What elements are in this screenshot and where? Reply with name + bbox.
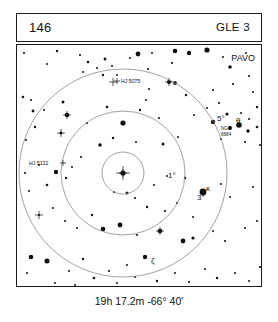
- star-point: [252, 91, 254, 93]
- star-point: [91, 214, 93, 216]
- star-point: [153, 184, 155, 186]
- star-point: [206, 107, 208, 109]
- star-point: [225, 112, 228, 115]
- star-point: [252, 186, 254, 188]
- star-point: [79, 54, 81, 56]
- star-point: [212, 89, 214, 91]
- star-tick-marker: [109, 78, 117, 86]
- star-point: [29, 255, 34, 260]
- star-point: [28, 190, 30, 192]
- star-point: [135, 141, 137, 143]
- star-point: [191, 236, 194, 239]
- object-label-2: NGC: [221, 126, 232, 131]
- coordinate-caption: 19h 17.2m -66° 40': [0, 295, 278, 307]
- star-point: [23, 52, 25, 54]
- star-point: [98, 143, 102, 147]
- star-point: [116, 74, 118, 76]
- star-point: [111, 65, 113, 67]
- star-point: [43, 109, 45, 111]
- ring-label-1: 1°: [168, 171, 176, 180]
- star-point: [164, 210, 166, 212]
- object-label-1: HJ 5132: [29, 160, 48, 166]
- star-point: [136, 52, 141, 57]
- star-point: [82, 71, 84, 73]
- star-tick-marker: [35, 211, 43, 219]
- star-point: [62, 101, 65, 104]
- star-point: [65, 177, 67, 179]
- star-point: [232, 83, 234, 85]
- star-point: [54, 282, 56, 284]
- star-point: [68, 270, 70, 272]
- star-point: [181, 239, 186, 244]
- star-point: [106, 106, 109, 109]
- star-point: [126, 264, 128, 266]
- star-point: [228, 65, 232, 69]
- star-point: [112, 137, 114, 139]
- star-point: [54, 170, 58, 174]
- star-point: [96, 67, 98, 69]
- constellation-label: PAVO: [231, 53, 255, 63]
- star-point: [22, 96, 25, 99]
- star-tick-marker: [165, 78, 173, 86]
- star-point: [120, 120, 125, 125]
- star-point: [244, 227, 246, 229]
- star-point: [244, 141, 246, 143]
- star-point: [52, 207, 54, 209]
- star-point: [139, 109, 141, 111]
- chart-header: 146 GLE 3: [16, 13, 262, 42]
- ring-label-5: 5°: [217, 114, 225, 123]
- star-point: [192, 216, 194, 218]
- star-label-theta-pavonis: θ: [236, 116, 241, 125]
- star-point: [185, 94, 187, 96]
- star-point: [248, 118, 250, 120]
- star-point: [248, 75, 250, 77]
- star-point: [116, 282, 118, 284]
- star-point: [146, 206, 148, 208]
- star-point: [234, 272, 236, 274]
- star-point: [108, 270, 110, 272]
- star-point: [212, 230, 214, 232]
- star-tick-marker: [156, 227, 164, 235]
- star-point: [82, 258, 84, 260]
- star-point: [102, 74, 104, 76]
- star-point: [129, 57, 131, 59]
- star-point: [256, 220, 258, 222]
- star-point: [173, 49, 178, 54]
- star-point: [229, 196, 231, 198]
- star-label-kappa-pavonis: κ: [206, 184, 211, 193]
- star-point: [177, 136, 179, 138]
- star-point: [46, 63, 48, 65]
- star-chart: 146 GLE 3 PAVO1°3°5°HJ 5075HJ 5132NGC668…: [0, 0, 278, 322]
- object-label-0: HJ 5075: [121, 78, 140, 84]
- star-point: [87, 61, 90, 64]
- chart-code: GLE 3: [216, 21, 250, 33]
- star-point: [216, 277, 218, 279]
- star-point: [32, 110, 35, 113]
- star-point: [204, 47, 209, 52]
- star-point: [93, 277, 96, 280]
- chart-center-marker: [116, 166, 130, 180]
- star-tick-marker: [101, 286, 109, 287]
- star-point: [101, 227, 106, 232]
- star-field-plot: PAVO1°3°5°HJ 5075HJ 5132NGC6684θκζ: [16, 44, 262, 287]
- center-crosshair-icon: [116, 166, 130, 180]
- star-point: [240, 112, 242, 114]
- star-point: [156, 280, 158, 282]
- star-point: [224, 240, 226, 242]
- star-point: [76, 227, 78, 229]
- star-point: [193, 114, 195, 116]
- star-field-svg: PAVO1°3°5°HJ 5075HJ 5132NGC6684θκζ: [17, 45, 262, 287]
- star-point: [24, 172, 26, 174]
- star-point: [25, 139, 27, 141]
- stars-layer: [22, 47, 261, 287]
- star-point: [158, 117, 160, 119]
- star-point: [256, 126, 259, 129]
- star-point: [56, 50, 58, 52]
- star-point: [220, 183, 222, 185]
- star-point: [145, 99, 147, 101]
- star-point: [187, 51, 191, 55]
- star-point: [143, 255, 147, 259]
- star-point: [104, 58, 107, 61]
- star-point: [246, 129, 249, 132]
- star-point: [162, 143, 165, 146]
